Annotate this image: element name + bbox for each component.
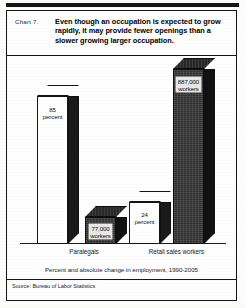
bar-top-face <box>37 85 79 96</box>
bar-value-label: 85 percent <box>43 106 63 120</box>
bar-value-label: 24 percent <box>135 211 155 225</box>
bar-paralegals-workers: 77,000 workers <box>85 217 116 244</box>
bar-top-face <box>173 58 215 69</box>
bar-side-face <box>204 69 215 244</box>
bar-value-line1: 24 <box>135 211 155 218</box>
bar-value-line1: 77,000 <box>90 225 111 232</box>
bar-value-line2: percent <box>43 113 63 120</box>
bar-paralegals-percent: 85 percent <box>37 96 68 244</box>
chart-number-label: Chart 7. <box>15 17 49 25</box>
bar-front-face: 77,000 workers <box>85 217 116 244</box>
bar-front-face: 85 percent <box>37 96 68 244</box>
plot-area: 85 percent 77,000 workers 24 <box>7 56 236 254</box>
bar-side-face <box>68 96 79 244</box>
bar-front-face: 24 percent <box>129 202 160 244</box>
bar-value-line2: percent <box>135 218 155 225</box>
axis-caption: Percent and absolute change in employmen… <box>7 266 236 273</box>
bar-side-face <box>160 202 171 244</box>
source-divider <box>7 279 236 280</box>
bar-value-line1: 887,000 <box>178 78 199 85</box>
source-note: Source: Bureau of Labor Statistics <box>12 283 95 289</box>
bar-value-line1: 85 <box>43 106 63 113</box>
bar-value-line2: workers <box>178 85 199 92</box>
bar-side-face <box>116 217 127 244</box>
bar-value-label: 887,000 workers <box>176 77 200 92</box>
chart-figure: Chart 7. Even though an occupation is ex… <box>0 0 245 308</box>
category-label-paralegals: Paralegals <box>49 248 119 255</box>
bar-value-line2: workers <box>90 232 111 239</box>
bar-top-face <box>85 206 127 217</box>
bar-value-label: 77,000 workers <box>89 224 113 239</box>
bar-front-face: 887,000 workers <box>173 69 204 244</box>
bar-top-face <box>129 191 171 202</box>
bar-retail-percent: 24 percent <box>129 202 160 244</box>
chart-header: Chart 7. Even though an occupation is ex… <box>7 11 236 50</box>
page-top-rule <box>6 3 239 7</box>
chart-headline: Even though an occupation is expected to… <box>55 17 228 45</box>
bar-retail-workers: 887,000 workers <box>173 69 204 244</box>
category-label-retail-sales-workers: Retail sales workers <box>129 248 224 255</box>
